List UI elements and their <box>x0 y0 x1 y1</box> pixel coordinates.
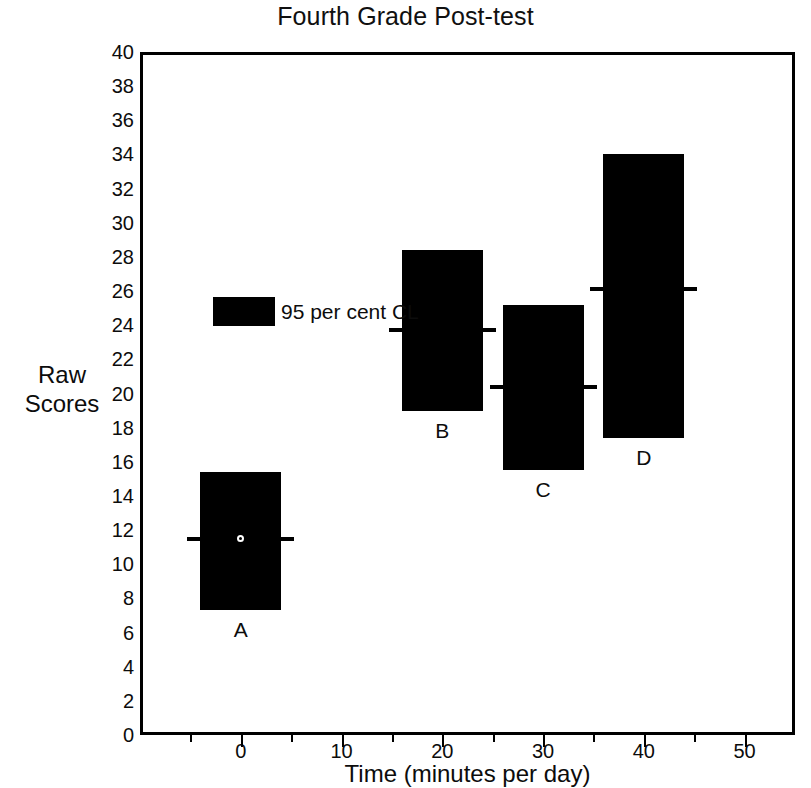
x-tick-mark-minor <box>593 735 595 742</box>
y-tick-label: 0 <box>74 725 134 745</box>
mean-line-b <box>389 328 496 332</box>
y-tick-label: 22 <box>74 349 134 369</box>
mean-line-c <box>490 385 597 389</box>
y-tick-label: 26 <box>74 281 134 301</box>
y-tick-label: 6 <box>74 623 134 643</box>
y-axis-tick-labels: 0246810121416182022242628303234363840 <box>72 0 134 786</box>
y-tick-label: 30 <box>74 213 134 233</box>
x-tick-mark-minor <box>493 735 495 742</box>
y-tick-label: 4 <box>74 657 134 677</box>
y-tick-label: 38 <box>74 76 134 96</box>
x-tick-mark-minor <box>291 735 293 742</box>
y-tick-label: 16 <box>74 452 134 472</box>
y-tick-label: 32 <box>74 179 134 199</box>
y-tick-label: 28 <box>74 247 134 267</box>
y-tick-label: 20 <box>74 384 134 404</box>
x-tick-mark <box>342 735 344 747</box>
ci-bar-d <box>603 154 684 437</box>
x-tick-mark <box>745 735 747 747</box>
y-tick-label: 18 <box>74 418 134 438</box>
y-tick-label: 8 <box>74 588 134 608</box>
y-tick-label: 34 <box>74 144 134 164</box>
x-tick-mark <box>241 735 243 747</box>
y-tick-label: 12 <box>74 520 134 540</box>
bar-label-c: C <box>513 478 573 502</box>
bar-label-d: D <box>614 446 674 470</box>
bar-label-a: A <box>211 618 271 642</box>
y-tick-label: 14 <box>74 486 134 506</box>
y-tick-label: 10 <box>74 554 134 574</box>
y-tick-label: 40 <box>74 42 134 62</box>
x-tick-mark <box>644 735 646 747</box>
x-tick-mark-minor <box>190 735 192 742</box>
x-tick-mark <box>442 735 444 747</box>
legend: 95 per cent CL <box>213 297 419 326</box>
x-tick-mark <box>543 735 545 747</box>
bar-label-b: B <box>412 419 472 443</box>
legend-label-95-cl: 95 per cent CL <box>281 300 419 324</box>
x-tick-mark-minor <box>392 735 394 742</box>
y-tick-label: 2 <box>74 691 134 711</box>
x-tick-mark-minor <box>694 735 696 742</box>
x-axis-title: Time (minutes per day) <box>140 760 795 788</box>
mean-line-d <box>590 287 697 291</box>
y-tick-label: 24 <box>74 315 134 335</box>
legend-swatch-95-cl <box>213 297 275 326</box>
y-tick-label: 36 <box>74 110 134 130</box>
